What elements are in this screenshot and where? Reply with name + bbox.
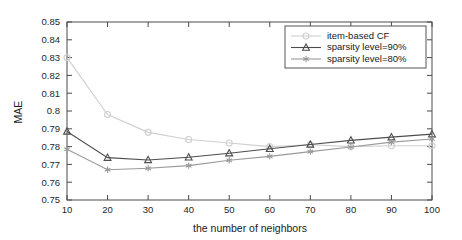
line-chart: 0.750.760.770.780.790.80.810.820.830.840… (0, 0, 462, 240)
x-tick-label: 60 (264, 204, 275, 215)
y-tick-label: 0.81 (42, 88, 61, 99)
y-tick-label: 0.78 (42, 141, 61, 152)
y-tick-label: 0.75 (42, 194, 61, 205)
x-tick-label: 30 (143, 204, 154, 215)
y-tick-label: 0.85 (42, 16, 61, 27)
x-tick-label: 40 (183, 204, 194, 215)
x-tick-label: 70 (305, 204, 316, 215)
x-tick-label: 90 (386, 204, 397, 215)
y-tick-label: 0.79 (42, 123, 61, 134)
y-tick-label: 0.84 (42, 34, 61, 45)
x-tick-label: 50 (224, 204, 235, 215)
y-tick-label: 0.82 (42, 70, 61, 81)
x-axis-title: the number of neighbors (193, 222, 307, 234)
legend-label: sparsity level=80% (327, 53, 407, 64)
y-tick-label: 0.76 (42, 177, 61, 188)
legend-label: sparsity level=90% (327, 41, 407, 52)
y-tick-label: 0.83 (42, 52, 61, 63)
x-tick-label: 100 (424, 204, 440, 215)
y-axis-title: MAE (12, 101, 24, 124)
chart-legend: item-based CFsparsity level=90%sparsity … (285, 26, 426, 68)
chart-figure: 0.750.760.770.780.790.80.810.820.830.840… (0, 0, 462, 240)
x-tick-label: 20 (102, 204, 113, 215)
x-tick-label: 10 (62, 204, 73, 215)
y-tick-label: 0.77 (42, 159, 61, 170)
y-tick-label: 0.8 (47, 105, 60, 116)
legend-label: item-based CF (327, 30, 389, 41)
x-tick-label: 80 (346, 204, 357, 215)
